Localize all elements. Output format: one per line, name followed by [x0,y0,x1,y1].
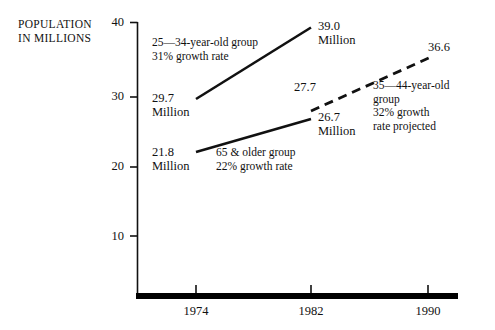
annotation-group-25-34: 25—34-year-old group 31% growth rate [152,36,258,63]
annotation-group-35-44: 35—44-year-old group 32% growth rate pro… [373,79,449,133]
y-tick-label-40: 40 [98,16,124,29]
value-label-29-7-value: 29.7 [152,91,190,105]
annotation-group-35-44-line4: rate projected [373,120,449,134]
value-label-36-6-value: 36.6 [428,40,450,54]
annotation-group-65-older-line2: 22% growth rate [216,160,296,174]
value-label-29-7: 29.7 Million [152,91,190,119]
x-tick-label-1982: 1982 [281,305,341,318]
value-label-26-7-unit: Million [318,124,356,138]
y-tick-label-30: 30 [98,90,124,103]
y-tick-label-10: 10 [98,230,124,243]
value-label-27-7-value: 27.7 [294,80,316,94]
value-label-39-0-unit: Million [318,33,356,47]
annotation-group-65-older-line1: 65 & older group [216,146,296,160]
annotation-group-65-older: 65 & older group 22% growth rate [216,146,296,173]
value-label-21-8-value: 21.8 [152,145,190,159]
x-tick-label-1974: 1974 [166,305,226,318]
annotation-group-35-44-line1: 35—44-year-old [373,79,449,93]
x-axis-baseline [136,293,458,299]
value-label-26-7-value: 26.7 [318,110,356,124]
annotation-group-25-34-line1: 25—34-year-old group [152,36,258,50]
chart-canvas: POPULATION IN MILLIONS 40 30 20 10 1974 … [0,0,495,330]
y-tick-label-20: 20 [98,160,124,173]
value-label-39-0: 39.0 Million [318,19,356,47]
value-label-39-0-value: 39.0 [318,19,356,33]
value-label-26-7: 26.7 Million [318,110,356,138]
annotation-group-35-44-line2: group [373,93,449,107]
annotation-group-35-44-line3: 32% growth [373,106,449,120]
value-label-21-8-unit: Million [152,159,190,173]
annotation-group-25-34-line2: 31% growth rate [152,50,258,64]
value-label-29-7-unit: Million [152,105,190,119]
value-label-21-8: 21.8 Million [152,145,190,173]
value-label-36-6: 36.6 [428,40,450,54]
value-label-27-7: 27.7 [294,80,316,94]
x-tick-label-1990: 1990 [398,305,458,318]
